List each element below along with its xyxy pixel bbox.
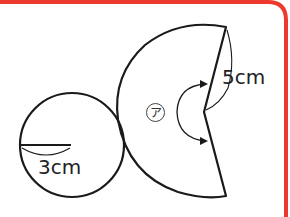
geometry-diagram (0, 0, 290, 217)
side-length-label: 5cm (222, 67, 265, 87)
red-border (0, 2, 286, 217)
angle-arrow-top-icon (200, 80, 208, 88)
sector-shape (117, 25, 226, 198)
angle-arc (177, 84, 205, 141)
angle-arrow-bottom-icon (200, 137, 208, 145)
radius-label: 3cm (38, 157, 81, 177)
radius-brace (22, 148, 70, 155)
angle-marker-a: ア (146, 103, 165, 122)
figure-frame: 3cm 5cm ア (0, 0, 290, 217)
